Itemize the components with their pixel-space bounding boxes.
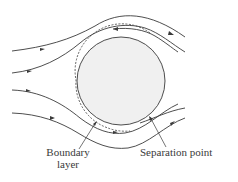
boundary-layer-label: Boundary layer [40,146,96,170]
separation-point-leader-line [150,117,166,147]
arrow-icon [40,48,45,51]
arrow-icon [27,70,32,73]
arrow-icon [113,27,118,31]
arrow-icon [168,31,174,35]
boundary-layer-label-line1: Boundary [40,146,96,158]
cylinder [77,37,165,125]
arrow-icon [50,116,55,120]
separation-point-label: Separation point [140,146,212,158]
boundary-layer-label-line2: layer [40,158,96,170]
